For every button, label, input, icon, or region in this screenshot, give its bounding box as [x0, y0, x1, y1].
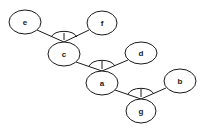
- edge-c-a: [76, 62, 102, 71]
- node-e: e: [9, 10, 41, 34]
- node-g: g: [126, 99, 156, 123]
- node-c: c: [48, 42, 80, 66]
- node-label: f: [101, 19, 104, 28]
- node-label: d: [139, 49, 144, 58]
- and-group-c: [37, 30, 89, 42]
- and-group-g: [115, 88, 166, 99]
- node-label: c: [62, 50, 67, 59]
- node-f: f: [87, 11, 117, 35]
- node-a: a: [86, 71, 118, 95]
- node-b: b: [164, 69, 196, 93]
- node-label: b: [178, 77, 183, 86]
- node-d: d: [125, 42, 157, 64]
- node-label: a: [100, 79, 105, 88]
- node-label: g: [139, 107, 144, 116]
- edge-a-g: [115, 90, 141, 99]
- and-tree-diagram: e f c d a b g: [0, 0, 200, 130]
- node-label: e: [23, 18, 28, 27]
- and-group-a: [76, 60, 128, 71]
